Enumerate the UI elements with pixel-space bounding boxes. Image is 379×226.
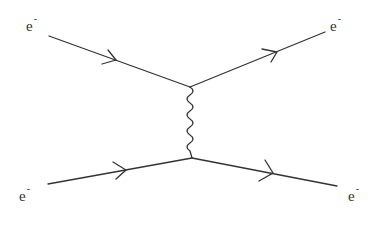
label-outgoing-electron-bottom: e-	[348, 187, 359, 204]
photon-wavy-line	[187, 87, 193, 158]
arrow-icon	[262, 49, 277, 62]
incoming-electron-bottom-line	[48, 158, 192, 184]
arrow-icon	[102, 50, 116, 64]
label-incoming-electron-top: e-	[26, 17, 37, 34]
diagram-lines	[0, 0, 379, 226]
arrow-icon	[259, 160, 273, 181]
outgoing-electron-bottom-line	[192, 158, 337, 186]
feynman-diagram: e- e- e- e-	[0, 0, 379, 226]
label-outgoing-electron-top: e-	[330, 17, 341, 34]
incoming-electron-top-line	[49, 36, 190, 87]
label-incoming-electron-bottom: e-	[19, 187, 30, 204]
outgoing-electron-top-line	[190, 32, 325, 87]
